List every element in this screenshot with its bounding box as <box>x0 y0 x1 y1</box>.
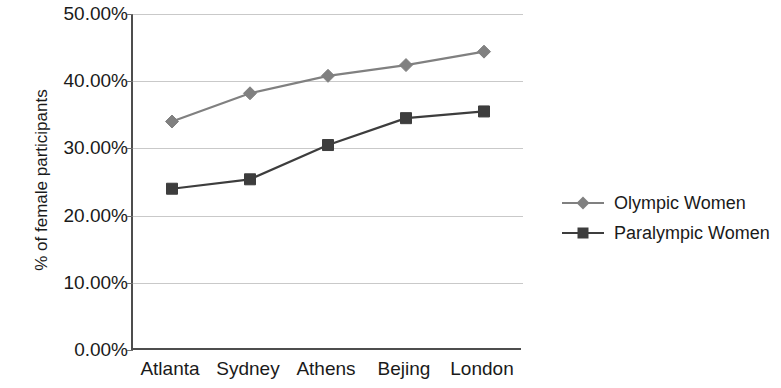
y-axis-tick-label: 50.00% <box>28 4 128 23</box>
data-point <box>244 87 257 100</box>
y-axis-tick-labels: 50.00%40.00%30.00%20.00%10.00%0.00% <box>28 0 128 388</box>
y-axis-tickmark <box>127 350 133 351</box>
legend-item[interactable]: Olympic Women <box>560 188 775 218</box>
data-point <box>166 115 179 128</box>
legend-label: Paralympic Women <box>606 223 770 243</box>
series-line <box>172 52 484 122</box>
diamond-marker-icon <box>560 193 606 213</box>
data-point <box>167 183 178 194</box>
series-2 <box>167 106 490 194</box>
legend-label: Olympic Women <box>606 193 746 213</box>
x-axis-tick-label: London <box>422 356 542 382</box>
data-point <box>478 45 491 58</box>
legend-item[interactable]: Paralympic Women <box>560 218 775 248</box>
line-chart: % of female participants 50.00%40.00%30.… <box>0 0 781 388</box>
plot-area <box>131 14 521 350</box>
data-point <box>401 113 412 124</box>
chart-legend: Olympic WomenParalympic Women <box>560 188 775 248</box>
y-axis-tick-label: 30.00% <box>28 138 128 157</box>
data-point <box>400 59 413 72</box>
y-axis-tick-label: 40.00% <box>28 71 128 90</box>
y-axis-tick-label: 20.00% <box>28 206 128 225</box>
data-point <box>245 174 256 185</box>
data-point <box>322 69 335 82</box>
y-axis-tick-label: 10.00% <box>28 273 128 292</box>
data-point <box>479 106 490 117</box>
x-axis-tick-labels: AtlantaSydneyAthensBejingLondon <box>110 356 540 386</box>
data-point <box>323 140 334 151</box>
series-layer <box>133 14 523 350</box>
square-marker-icon <box>560 223 606 243</box>
